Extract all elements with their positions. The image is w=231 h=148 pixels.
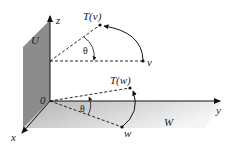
point-v — [141, 59, 144, 62]
theta-lower-label: θ — [80, 103, 85, 114]
rotation-diagram: z y x 0 U W v T(v) w T(w) θ θ — [0, 0, 231, 148]
plane-w-label: W — [164, 116, 174, 128]
point-tw-label: T(w) — [110, 74, 131, 87]
point-tv — [98, 23, 101, 26]
rotation-arc-v — [104, 26, 143, 60]
theta-upper-label: θ — [83, 45, 88, 56]
point-tv-label: T(v) — [83, 10, 102, 23]
origin-label: 0 — [40, 94, 46, 106]
point-tw — [128, 86, 131, 89]
point-w-label: w — [124, 127, 132, 139]
plane-w — [23, 101, 222, 128]
x-axis-label: x — [10, 131, 16, 143]
diagram-canvas: z y x 0 U W v T(v) w T(w) θ θ — [0, 0, 231, 148]
point-v-label: v — [147, 56, 152, 68]
z-axis-label: z — [55, 14, 61, 26]
y-axis-label: y — [215, 104, 221, 116]
dashed-to-tv — [50, 25, 100, 61]
plane-u-label: U — [31, 34, 40, 46]
